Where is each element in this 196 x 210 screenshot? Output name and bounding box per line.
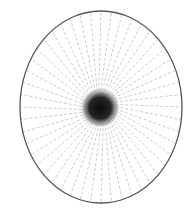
ray-line <box>99 11 101 96</box>
ray-line <box>109 113 158 175</box>
dense-core-blob <box>80 88 120 128</box>
ray-line <box>106 39 158 97</box>
ray-line <box>102 18 132 95</box>
ray-line <box>44 117 96 175</box>
ray-line <box>52 31 94 100</box>
ray-line <box>70 118 100 195</box>
ray-line <box>101 14 122 95</box>
ray-line <box>90 12 97 96</box>
ray-line <box>110 82 180 101</box>
ray-line <box>107 116 132 195</box>
ray-line <box>109 70 176 100</box>
ray-line <box>70 18 95 97</box>
ray-line <box>105 118 112 202</box>
ray-line <box>26 70 91 105</box>
ray-line <box>44 39 93 101</box>
ray-line <box>100 12 112 96</box>
ray-line <box>80 119 101 200</box>
ray-line <box>90 118 102 202</box>
ray-line <box>52 118 97 184</box>
ray-line <box>111 106 182 120</box>
ray-line <box>101 118 103 203</box>
ray-line <box>111 109 176 144</box>
ray-line <box>109 114 151 183</box>
ray-line <box>111 107 180 132</box>
radial-spiral-diagram <box>0 0 196 210</box>
ray-line <box>110 104 182 107</box>
ray-line <box>105 31 150 97</box>
